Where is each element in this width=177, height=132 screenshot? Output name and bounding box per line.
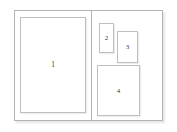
content-block-4[interactable]: 4 — [97, 65, 140, 116]
content-block-1-label: 1 — [21, 61, 85, 69]
page-spread-frame: 1 2 3 4 — [14, 10, 163, 121]
diagram-canvas: 1 2 3 4 — [0, 0, 177, 132]
page-spine-divider — [91, 11, 92, 120]
content-block-1[interactable]: 1 — [20, 17, 86, 113]
content-block-2[interactable]: 2 — [99, 23, 114, 53]
content-block-3-label: 3 — [118, 43, 137, 51]
content-block-2-label: 2 — [100, 34, 113, 42]
content-block-3[interactable]: 3 — [117, 31, 138, 63]
content-block-4-label: 4 — [98, 87, 139, 95]
